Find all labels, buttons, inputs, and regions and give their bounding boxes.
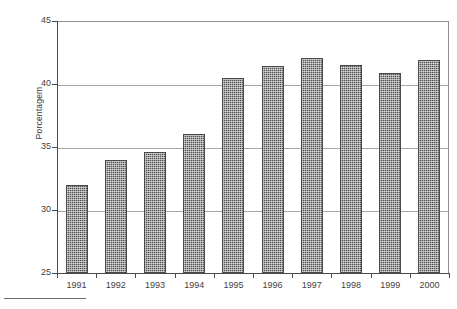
- bar: [418, 60, 440, 273]
- x-tick-mark: [175, 273, 176, 278]
- x-tick-mark: [253, 273, 254, 278]
- y-tick-mark: [52, 210, 58, 211]
- x-tick-label: 2000: [406, 280, 452, 290]
- y-tick-label: 35: [25, 141, 51, 151]
- x-tick-mark: [135, 273, 136, 278]
- bar: [66, 185, 88, 273]
- x-tick-mark: [214, 273, 215, 278]
- y-tick-label: 25: [25, 267, 51, 277]
- bar: [144, 152, 166, 273]
- bar: [340, 65, 362, 273]
- x-tick-mark: [410, 273, 411, 278]
- x-tick-mark: [96, 273, 97, 278]
- y-axis-title: Porcentagem: [34, 58, 44, 168]
- bar: [183, 134, 205, 273]
- bar: [262, 66, 284, 273]
- bar-chart: Porcentagem 2530354045 19911992199319941…: [0, 0, 457, 309]
- y-tick-label: 30: [25, 204, 51, 214]
- y-tick-label: 40: [25, 78, 51, 88]
- x-tick-mark: [331, 273, 332, 278]
- x-tick-mark: [57, 273, 58, 278]
- x-tick-mark: [449, 273, 450, 278]
- bar: [301, 58, 323, 273]
- y-tick-label: 45: [25, 15, 51, 25]
- y-tick-mark: [52, 84, 58, 85]
- bar: [379, 73, 401, 273]
- y-tick-mark: [52, 21, 58, 22]
- y-tick-mark: [52, 147, 58, 148]
- x-tick-mark: [371, 273, 372, 278]
- bar: [105, 160, 127, 273]
- x-tick-mark: [292, 273, 293, 278]
- footer-rule: [4, 298, 86, 299]
- bar: [222, 78, 244, 273]
